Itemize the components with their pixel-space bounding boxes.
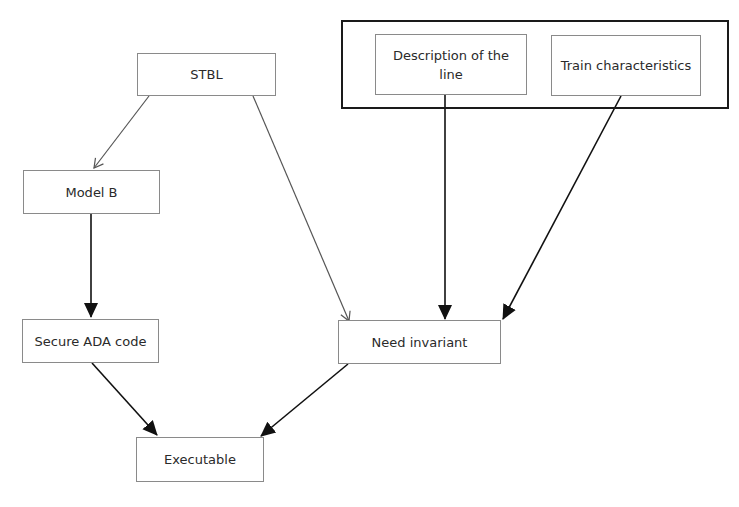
node-stbl-label: STBL	[190, 65, 222, 84]
edge-train-to-need-invariant	[503, 96, 621, 319]
node-need-invariant[interactable]: Need invariant	[338, 320, 501, 364]
node-executable-label: Executable	[164, 450, 236, 469]
edge-stbl-to-need-invariant	[253, 96, 349, 321]
node-stbl[interactable]: STBL	[137, 53, 276, 96]
node-secure-ada-code[interactable]: Secure ADA code	[22, 319, 159, 363]
node-executable[interactable]: Executable	[136, 437, 264, 482]
diagram-canvas: STBL Description of the line Train chara…	[0, 0, 739, 507]
edge-stbl-to-model-b	[94, 96, 149, 168]
node-model-b[interactable]: Model B	[23, 170, 160, 214]
node-description-of-the-line[interactable]: Description of the line	[375, 34, 527, 95]
node-secure-ada-label: Secure ADA code	[35, 332, 147, 351]
node-description-label: Description of the line	[391, 46, 511, 84]
edge-secure-ada-to-executable	[92, 363, 157, 435]
node-train-characteristics-label: Train characteristics	[561, 56, 692, 75]
node-need-invariant-label: Need invariant	[372, 333, 468, 352]
node-train-characteristics[interactable]: Train characteristics	[551, 35, 701, 96]
edge-need-invariant-to-executable	[261, 364, 348, 436]
node-model-b-label: Model B	[65, 183, 117, 202]
